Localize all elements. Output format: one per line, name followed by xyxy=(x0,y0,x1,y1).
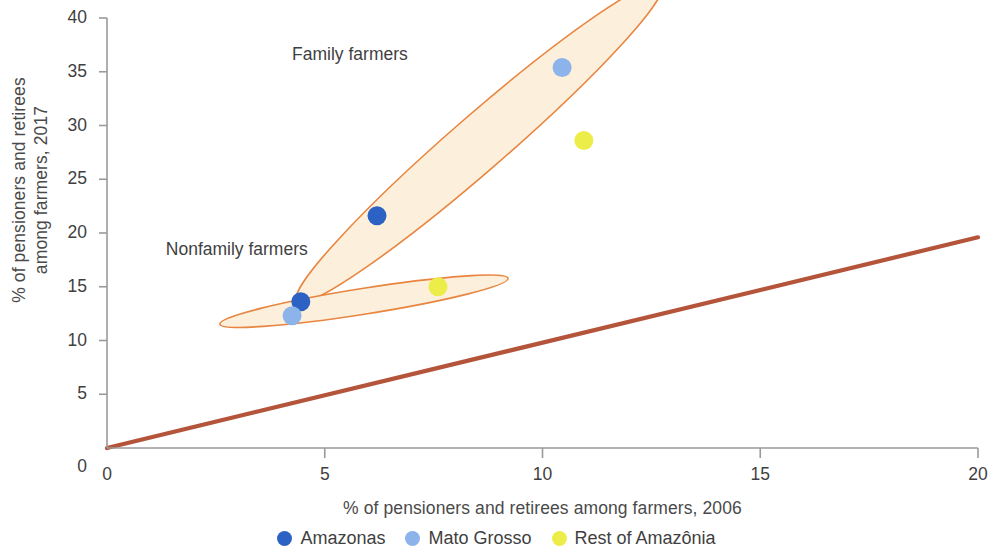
legend-item[interactable]: Mato Grosso xyxy=(405,528,531,549)
data-point xyxy=(574,131,593,150)
legend-item[interactable]: Amazonas xyxy=(277,528,385,549)
legend-label: Amazonas xyxy=(300,528,385,549)
cluster-label: Nonfamily farmers xyxy=(166,239,308,260)
y-axis-title-line2: among farmers, 2017 xyxy=(30,0,52,400)
scatter-chart: 0510152025303540 05101520 Family farmers… xyxy=(0,0,993,559)
x-tick-label: 15 xyxy=(730,464,790,485)
legend-label: Mato Grosso xyxy=(428,528,531,549)
reference-line xyxy=(107,237,978,448)
legend-label: Rest of Amazônia xyxy=(575,528,716,549)
x-tick-label: 10 xyxy=(513,464,573,485)
x-tick-label: 0 xyxy=(77,464,137,485)
legend-swatch-icon xyxy=(552,531,567,546)
cluster-ellipses-layer xyxy=(218,0,680,337)
data-point xyxy=(368,206,387,225)
cluster-label: Family farmers xyxy=(292,44,408,65)
legend-swatch-icon xyxy=(405,531,420,546)
y-axis-title: % of pensioners and retirees among farme… xyxy=(8,0,52,400)
plot-area xyxy=(0,0,993,559)
x-axis-title: % of pensioners and retirees among farme… xyxy=(107,498,978,519)
data-point xyxy=(553,58,572,77)
legend: AmazonasMato GrossoRest of Amazônia xyxy=(0,528,993,549)
x-tick-label: 20 xyxy=(948,464,993,485)
y-axis-title-line1: % of pensioners and retirees xyxy=(8,0,30,400)
cluster-ellipse xyxy=(218,266,510,337)
legend-item[interactable]: Rest of Amazônia xyxy=(552,528,716,549)
data-point xyxy=(283,306,302,325)
legend-swatch-icon xyxy=(277,531,292,546)
reference-line-layer xyxy=(107,237,978,448)
x-tick-label: 5 xyxy=(295,464,355,485)
data-point xyxy=(428,277,447,296)
